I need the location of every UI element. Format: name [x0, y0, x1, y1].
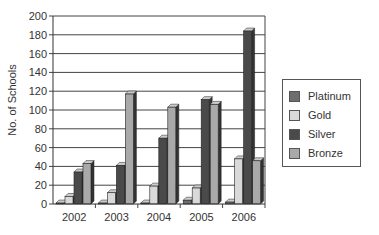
legend-item-gold: Gold — [289, 108, 331, 122]
x-tick-label: 2004 — [147, 211, 171, 223]
y-tick-label: 200 — [29, 10, 47, 22]
legend-label-gold: Gold — [308, 109, 331, 121]
y-tick-label: 140 — [29, 66, 47, 78]
x-tick-labels: 20022003200420052006 — [62, 211, 256, 223]
bar-bronze-2004 — [168, 107, 176, 204]
x-tick-label: 2003 — [104, 211, 128, 223]
bar-gold-2005 — [192, 188, 200, 204]
bar-gold-2002 — [65, 196, 73, 204]
y-tick-label: 40 — [35, 160, 47, 172]
y-axis-label: No. of Schools — [6, 64, 18, 136]
bar-silver-2003 — [116, 165, 124, 204]
legend-swatch-silver — [289, 129, 300, 140]
legend-item-silver: Silver — [289, 127, 336, 141]
bar-gold-2006 — [235, 159, 243, 204]
legend-label-bronze: Bronze — [308, 147, 343, 159]
y-tick-label: 120 — [29, 85, 47, 97]
legend-swatch-bronze — [289, 148, 300, 159]
legend: Platinum Gold Silver Bronze — [282, 79, 361, 167]
legend-swatch-platinum — [289, 91, 300, 102]
bar-silver-2006 — [244, 31, 252, 204]
y-tick-labels: 020406080100120140160180200 — [29, 10, 47, 210]
bar-gold-2004 — [150, 186, 158, 204]
x-tick-label: 2005 — [189, 211, 213, 223]
bar-bronze-2006 — [253, 161, 261, 204]
bars — [56, 28, 264, 204]
y-tick-label: 20 — [35, 179, 47, 191]
y-tick-label: 160 — [29, 48, 47, 60]
y-tick-label: 80 — [35, 123, 47, 135]
x-tick-label: 2002 — [62, 211, 86, 223]
y-tick-label: 0 — [41, 198, 47, 210]
y-tick-label: 100 — [29, 104, 47, 116]
legend-item-platinum: Platinum — [289, 89, 351, 103]
x-tick-label: 2006 — [232, 211, 256, 223]
bar-platinum-2005 — [183, 200, 191, 204]
bar-silver-2002 — [74, 172, 82, 204]
bar-bronze-2005 — [210, 104, 218, 204]
y-tick-label: 180 — [29, 29, 47, 41]
legend-label-silver: Silver — [308, 128, 336, 140]
bar-silver-2005 — [201, 100, 209, 204]
bar-bronze-2003 — [125, 94, 133, 204]
y-tick-label: 60 — [35, 142, 47, 154]
legend-label-platinum: Platinum — [308, 90, 351, 102]
legend-item-bronze: Bronze — [289, 146, 343, 160]
bar-gold-2003 — [107, 193, 115, 204]
bar-silver-2004 — [159, 138, 167, 204]
bar-bronze-2002 — [83, 164, 91, 204]
legend-swatch-gold — [289, 110, 300, 121]
